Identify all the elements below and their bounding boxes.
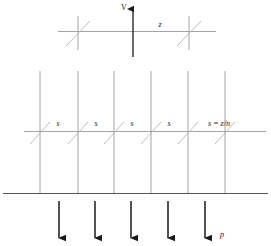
column-6: [215, 71, 235, 193]
structural-diagram-figure: V z: [0, 0, 271, 246]
segment-3-label: s: [130, 119, 133, 128]
span-total-label: z: [157, 20, 162, 29]
top-left-support: [66, 16, 90, 50]
bottom-panel-distributed-load: p: [3, 194, 268, 240]
velocity-label: V: [121, 3, 127, 12]
column-1: [30, 71, 50, 193]
column-4: [141, 71, 161, 193]
load-label: p: [219, 230, 224, 239]
segment-equation-label: s = z/n: [208, 119, 230, 128]
column-5: [178, 71, 198, 193]
middle-panel-multi-span-beam: s s s s s = z/n: [24, 71, 266, 193]
figure-canvas: V z: [0, 0, 271, 246]
top-panel-single-span-beam: V z: [58, 3, 216, 57]
segment-2-label: s: [94, 119, 97, 128]
top-right-support: [177, 16, 201, 50]
column-2: [68, 71, 88, 193]
segment-1-label: s: [56, 119, 59, 128]
segment-4-label: s: [167, 119, 170, 128]
column-3: [104, 71, 124, 193]
